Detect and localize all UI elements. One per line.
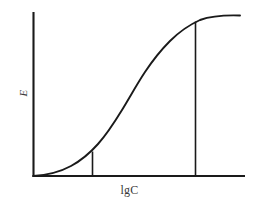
- figure-canvas: E lgC: [0, 0, 259, 206]
- x-axis-label: lgC: [0, 183, 259, 198]
- y-axis-label: E: [10, 83, 36, 103]
- sigmoid-curve: [34, 15, 241, 176]
- plot-area: [0, 0, 259, 206]
